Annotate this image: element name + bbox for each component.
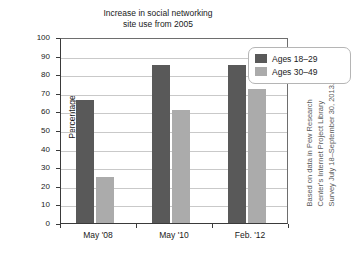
y-axis-tick-label: 0 (26, 220, 50, 228)
legend-swatch-light-icon (255, 67, 267, 76)
x-axis-tick-label: May '08 (63, 230, 133, 240)
y-axis-tick-mark (56, 205, 60, 206)
y-axis-tick-label: 70 (26, 90, 50, 98)
x-axis-tick-mark (136, 224, 137, 228)
y-axis-tick-mark (56, 57, 60, 58)
y-axis-tick-mark (56, 168, 60, 169)
y-axis-tick-label: 10 (26, 201, 50, 209)
bar-ages-18-29 (152, 65, 170, 223)
y-axis-tick-label: 60 (26, 108, 50, 116)
y-axis-tick-label: 50 (26, 127, 50, 135)
y-axis-tick-label: 30 (26, 164, 50, 172)
chart-title: Increase in social networking site use f… (58, 8, 258, 30)
y-axis-tick-mark (56, 94, 60, 95)
y-axis-tick-label: 80 (26, 71, 50, 79)
x-axis-tick-label: May '10 (139, 230, 209, 240)
y-axis-tick-mark (56, 131, 60, 132)
x-axis-tick-label: Feb. '12 (215, 230, 285, 240)
y-axis-tick-label: 20 (26, 183, 50, 191)
y-axis-tick-label: 40 (26, 146, 50, 154)
bar-ages-18-29 (76, 100, 94, 223)
x-axis-tick-mark (60, 224, 61, 228)
y-axis-tick-mark (56, 112, 60, 113)
chart-figure: Increase in social networking site use f… (0, 0, 358, 272)
bar-ages-30-49 (172, 110, 190, 223)
y-axis-tick-mark (56, 38, 60, 39)
x-axis-tick-mark (288, 224, 289, 228)
y-axis-tick-mark (56, 150, 60, 151)
y-axis-tick-label: 90 (26, 53, 50, 61)
source-note: Based on data in Pew Research Center's I… (304, 43, 337, 207)
bar-ages-30-49 (96, 177, 114, 224)
y-axis-tick-mark (56, 75, 60, 76)
legend-swatch-dark-icon (255, 54, 267, 63)
bar-ages-30-49 (248, 89, 266, 223)
y-axis-tick-label: 100 (26, 34, 50, 42)
y-axis-tick-mark (56, 187, 60, 188)
bar-ages-18-29 (228, 65, 246, 223)
x-axis-tick-mark (212, 224, 213, 228)
